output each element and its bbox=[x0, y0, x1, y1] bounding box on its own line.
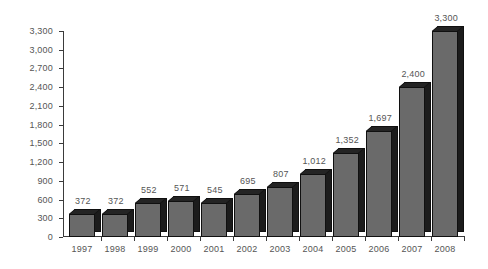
bar-group[interactable]: 5521999 bbox=[135, 203, 161, 237]
y-tick: 0 bbox=[59, 237, 63, 238]
bar-chart: 03006009001,2001,5001,8002,1002,4002,700… bbox=[0, 0, 488, 269]
bar-value-label: 807 bbox=[273, 169, 289, 179]
x-tick bbox=[299, 237, 300, 241]
bar[interactable] bbox=[366, 131, 392, 237]
bar[interactable] bbox=[135, 203, 161, 237]
y-tick: 2,400 bbox=[59, 87, 63, 88]
bar[interactable] bbox=[69, 214, 95, 237]
x-category-label: 2004 bbox=[303, 244, 324, 254]
bar[interactable] bbox=[234, 194, 260, 237]
bar-value-label: 2,400 bbox=[401, 69, 425, 79]
bar-group[interactable]: 1,6972006 bbox=[366, 131, 392, 237]
x-category-label: 2001 bbox=[204, 244, 225, 254]
y-tick: 3,000 bbox=[59, 50, 63, 51]
y-axis-line bbox=[63, 31, 64, 237]
x-tick bbox=[332, 237, 333, 241]
y-tick-label: 3,000 bbox=[29, 45, 53, 55]
y-tick: 300 bbox=[59, 218, 63, 219]
y-tick-label: 2,700 bbox=[29, 63, 53, 73]
bar-value-label: 372 bbox=[75, 196, 91, 206]
y-tick: 1,500 bbox=[59, 143, 63, 144]
x-category-label: 1999 bbox=[138, 244, 159, 254]
y-tick-label: 1,500 bbox=[29, 138, 53, 148]
x-category-label: 1998 bbox=[105, 244, 126, 254]
y-tick-label: 1,800 bbox=[29, 120, 53, 130]
y-tick-label: 3,300 bbox=[29, 26, 53, 36]
x-tick bbox=[200, 237, 201, 241]
bar-front-face bbox=[135, 203, 161, 237]
bar-group[interactable]: 3721997 bbox=[69, 214, 95, 237]
bar-group[interactable]: 2,4002007 bbox=[399, 87, 425, 237]
bar-value-label: 1,697 bbox=[368, 113, 392, 123]
bar-value-label: 3,300 bbox=[434, 13, 458, 23]
x-tick bbox=[464, 237, 465, 241]
bar-group[interactable]: 8072003 bbox=[267, 187, 293, 237]
y-tick-label: 0 bbox=[48, 232, 53, 242]
bar[interactable] bbox=[300, 174, 326, 237]
x-tick bbox=[167, 237, 168, 241]
bar-side-face bbox=[458, 26, 464, 232]
bar-top-face bbox=[234, 189, 266, 194]
x-category-label: 2006 bbox=[369, 244, 390, 254]
bar-top-face bbox=[267, 182, 299, 187]
y-tick: 1,200 bbox=[59, 162, 63, 163]
x-category-label: 2003 bbox=[270, 244, 291, 254]
x-category-label: 1997 bbox=[72, 244, 93, 254]
bar-front-face bbox=[399, 87, 425, 237]
bar-group[interactable]: 3721998 bbox=[102, 214, 128, 237]
y-tick: 3,300 bbox=[59, 31, 63, 32]
bar-value-label: 372 bbox=[108, 196, 124, 206]
x-category-label: 2008 bbox=[435, 244, 456, 254]
bar-group[interactable]: 6952002 bbox=[234, 194, 260, 237]
bar-front-face bbox=[201, 203, 227, 237]
x-category-label: 2000 bbox=[171, 244, 192, 254]
x-category-label: 2002 bbox=[237, 244, 258, 254]
bar[interactable] bbox=[267, 187, 293, 237]
x-category-label: 2005 bbox=[336, 244, 357, 254]
bar[interactable] bbox=[399, 87, 425, 237]
bar-side-face bbox=[194, 196, 200, 232]
bar-value-label: 695 bbox=[240, 176, 256, 186]
x-tick bbox=[101, 237, 102, 241]
x-tick bbox=[266, 237, 267, 241]
plot-area: 03006009001,2001,5001,8002,1002,4002,700… bbox=[63, 31, 465, 237]
bar-front-face bbox=[333, 153, 359, 237]
bar-side-face bbox=[326, 169, 332, 232]
bar[interactable] bbox=[333, 153, 359, 237]
y-tick: 1,800 bbox=[59, 125, 63, 126]
x-category-label: 2007 bbox=[402, 244, 423, 254]
bar-front-face bbox=[234, 194, 260, 237]
bar-side-face bbox=[293, 182, 299, 232]
bar-side-face bbox=[392, 126, 398, 232]
bar-group[interactable]: 1,0122004 bbox=[300, 174, 326, 237]
y-tick-label: 600 bbox=[37, 195, 53, 205]
bar-front-face bbox=[300, 174, 326, 237]
x-tick bbox=[431, 237, 432, 241]
bar-front-face bbox=[366, 131, 392, 237]
bar-value-label: 545 bbox=[207, 185, 223, 195]
y-tick-label: 1,200 bbox=[29, 157, 53, 167]
bar-side-face bbox=[260, 189, 266, 232]
x-tick bbox=[398, 237, 399, 241]
bar-group[interactable]: 5712000 bbox=[168, 201, 194, 237]
bar-group[interactable]: 1,3522005 bbox=[333, 153, 359, 237]
bar-top-face bbox=[333, 148, 365, 153]
bar-group[interactable]: 5452001 bbox=[201, 203, 227, 237]
bar-front-face bbox=[102, 214, 128, 237]
bar-front-face bbox=[432, 31, 458, 237]
y-tick-label: 300 bbox=[37, 213, 53, 223]
bar[interactable] bbox=[432, 31, 458, 237]
x-tick bbox=[134, 237, 135, 241]
bar-front-face bbox=[168, 201, 194, 237]
bar-side-face bbox=[161, 198, 167, 232]
bar[interactable] bbox=[201, 203, 227, 237]
bar-group[interactable]: 3,3002008 bbox=[432, 31, 458, 237]
bar-side-face bbox=[359, 148, 365, 232]
bar-value-label: 1,352 bbox=[335, 135, 359, 145]
bar-front-face bbox=[267, 187, 293, 237]
bar[interactable] bbox=[168, 201, 194, 237]
bar-side-face bbox=[425, 82, 431, 232]
bar[interactable] bbox=[102, 214, 128, 237]
y-tick: 600 bbox=[59, 200, 63, 201]
bar-value-label: 1,012 bbox=[302, 156, 326, 166]
